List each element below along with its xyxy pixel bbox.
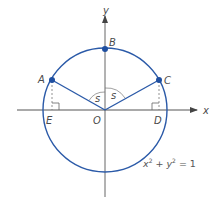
point-label-E: E [46,115,53,126]
angle-label-left: s [95,93,100,104]
point-C [156,77,162,83]
angle-label-right: s [111,90,116,101]
eq-x-exp: 2 [149,157,153,164]
unit-circle-diagram: y x B A C E O D s s x2+y2=1 [0,0,218,203]
eq-plus: + [155,158,163,169]
point-B [102,46,108,52]
circle-equation: x2+y2=1 [142,157,196,169]
right-angle-mark-D [152,103,159,110]
x-axis-label: x [202,105,209,116]
point-label-D: D [154,115,162,126]
eq-equals: = [179,158,187,169]
point-label-C: C [164,75,171,86]
point-A [49,77,55,83]
y-axis-label: y [102,5,110,16]
eq-rhs: 1 [190,158,196,169]
eq-y-exp: 2 [172,157,176,164]
point-label-A: A [37,74,45,85]
point-label-B: B [109,37,116,48]
right-angle-mark-E [52,103,59,110]
point-label-O: O [93,115,101,126]
